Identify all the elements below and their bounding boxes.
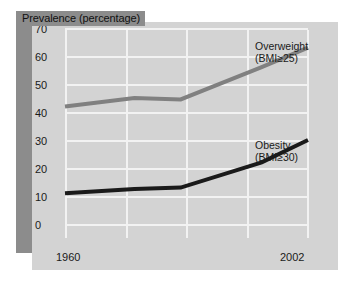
series-label-overweight-name: Overweight [255, 40, 308, 52]
x-tick-label-1960: 1960 [56, 251, 80, 263]
axis-side-band [16, 11, 33, 253]
series-label-obesity-criteria: (BMI≥30) [255, 151, 298, 163]
series-label-obesity: Obesity (BMI≥30) [255, 139, 298, 163]
series-label-overweight: Overweight (BMI≥25) [255, 40, 308, 64]
y-tick-label-60: 60 [35, 51, 63, 63]
x-tick-label-2002: 2002 [280, 251, 304, 263]
y-tick-label-0: 0 [35, 219, 63, 231]
y-axis: 70 60 50 40 30 20 10 0 [33, 30, 63, 238]
series-label-obesity-name: Obesity [255, 139, 298, 151]
x-axis: 1960 2002 [32, 248, 338, 270]
y-tick-label-30: 30 [35, 135, 63, 147]
y-tick-label-10: 10 [35, 191, 63, 203]
y-tick-label-20: 20 [35, 163, 63, 175]
chart-figure: Prevalence (percentage) 70 60 50 40 30 2… [0, 0, 346, 285]
chart-title: Prevalence (percentage) [16, 11, 145, 26]
series-label-overweight-criteria: (BMI≥25) [255, 52, 308, 64]
y-tick-label-50: 50 [35, 79, 63, 91]
y-tick-label-40: 40 [35, 107, 63, 119]
